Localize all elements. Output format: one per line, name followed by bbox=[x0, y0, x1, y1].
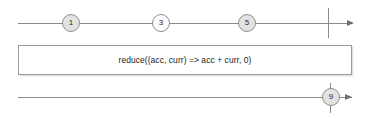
reduce-operator-box[interactable]: reduce((acc, curr) => acc + curr, 0) bbox=[18, 45, 352, 75]
result-marble-9-label: 9 bbox=[329, 93, 334, 101]
reduce-operator-label: reduce((acc, curr) => acc + curr, 0) bbox=[119, 55, 252, 65]
source-marble-3[interactable]: 3 bbox=[152, 14, 170, 32]
result-marble-9[interactable]: 9 bbox=[322, 88, 340, 106]
result-timeline-arrowhead bbox=[345, 94, 352, 100]
source-completion-bar bbox=[328, 8, 329, 38]
marble-diagram: 1 3 5 reduce((acc, curr) => acc + curr, … bbox=[0, 0, 371, 119]
source-marble-5[interactable]: 5 bbox=[238, 14, 256, 32]
source-marble-3-label: 3 bbox=[159, 19, 164, 27]
source-marble-5-label: 5 bbox=[245, 19, 250, 27]
source-marble-1[interactable]: 1 bbox=[62, 14, 80, 32]
result-timeline-line bbox=[18, 97, 352, 98]
source-marble-1-label: 1 bbox=[69, 19, 74, 27]
source-timeline-arrowhead bbox=[347, 20, 354, 26]
